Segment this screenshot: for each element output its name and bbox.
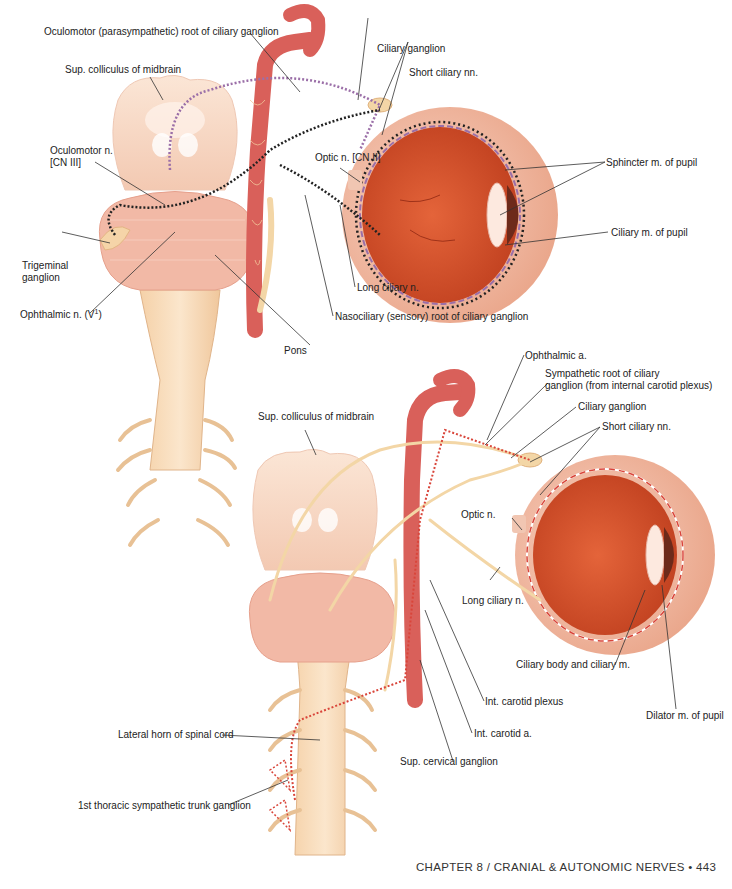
pons-bottom bbox=[249, 573, 395, 662]
label-sphincter: Sphincter m. of pupil bbox=[606, 157, 697, 169]
label-int-carotid-plexus: Int. carotid plexus bbox=[485, 696, 563, 708]
running-head: CHAPTER 8 / CRANIAL & AUTONOMIC NERVES •… bbox=[416, 861, 716, 873]
label-short-ciliary-bottom: Short ciliary nn. bbox=[602, 421, 671, 433]
label-trigeminal-ganglion: Trigeminal ganglion bbox=[22, 260, 68, 284]
label-first-thoracic: 1st thoracic sympathetic trunk ganglion bbox=[78, 800, 251, 812]
label-ophthalmic-a: Ophthalmic a. bbox=[525, 350, 587, 362]
label-ciliary-ganglion-bottom: Ciliary ganglion bbox=[578, 401, 646, 413]
bottom-figure bbox=[249, 376, 715, 855]
label-oculomotor-root: Oculomotor (parasympathetic) root of cil… bbox=[44, 26, 279, 38]
internal-carotid-bottom bbox=[411, 392, 460, 700]
label-optic-n-top: Optic n. [CN II] bbox=[315, 152, 381, 164]
label-lateral-horn: Lateral horn of spinal cord bbox=[118, 729, 234, 741]
label-ophthalmic-n: Ophthalmic n. (V1) bbox=[20, 306, 102, 321]
label-sympathetic-root: Sympathetic root of ciliary ganglion (fr… bbox=[545, 368, 712, 392]
label-dilator: Dilator m. of pupil bbox=[646, 710, 724, 722]
label-pons: Pons bbox=[284, 345, 307, 357]
spinal-cord-top bbox=[140, 290, 220, 470]
label-sup-cervical: Sup. cervical ganglion bbox=[400, 756, 498, 768]
label-ciliary-body: Ciliary body and ciliary m. bbox=[516, 659, 630, 671]
label-short-ciliary-top: Short ciliary nn. bbox=[409, 67, 478, 79]
label-optic-n-bottom: Optic n. bbox=[461, 509, 495, 521]
label-sup-colliculus-top: Sup. colliculus of midbrain bbox=[65, 64, 181, 76]
label-long-ciliary-bottom: Long ciliary n. bbox=[462, 595, 524, 607]
label-nasociliary: Nasociliary (sensory) root of ciliary ga… bbox=[335, 311, 528, 323]
eyeball-bottom bbox=[515, 455, 715, 655]
label-sup-colliculus-bottom: Sup. colliculus of midbrain bbox=[258, 411, 374, 423]
label-long-ciliary-top: Long ciliary n. bbox=[357, 282, 419, 294]
label-ciliary-m: Ciliary m. of pupil bbox=[611, 227, 688, 239]
anatomy-illustration bbox=[0, 0, 732, 889]
label-int-carotid-a: Int. carotid a. bbox=[474, 728, 532, 740]
label-ciliary-ganglion-top: Ciliary ganglion bbox=[377, 43, 445, 55]
midbrain-bottom bbox=[253, 449, 377, 570]
label-oculomotor-n: Oculomotor n. [CN III] bbox=[50, 145, 113, 169]
